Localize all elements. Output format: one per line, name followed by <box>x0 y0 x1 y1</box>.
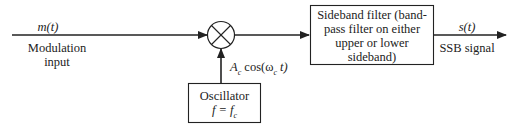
mixer-icon <box>208 22 235 49</box>
output-label: SSB signal <box>436 41 498 55</box>
oscillator-frequency: f = fc <box>189 103 260 123</box>
filter-text: Sideband filter (band- pass filter on ei… <box>311 8 433 64</box>
carrier-label: Ac cos(ωc t) <box>230 60 288 80</box>
oscillator-text: Oscillator f = fc <box>189 89 260 123</box>
input-label: Modulation input <box>14 41 100 69</box>
output-signal-label: s(t) <box>455 20 479 34</box>
input-signal-label: m(t) <box>36 20 60 34</box>
